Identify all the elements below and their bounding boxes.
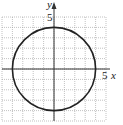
circle-graph: y 5 5 x <box>0 0 123 125</box>
x-axis-label: x <box>110 69 116 81</box>
y-axis-arrow-icon <box>52 2 57 9</box>
y-tick-label: 5 <box>47 11 53 23</box>
x-tick-label: 5 <box>102 69 108 81</box>
y-axis-label: y <box>46 0 52 10</box>
